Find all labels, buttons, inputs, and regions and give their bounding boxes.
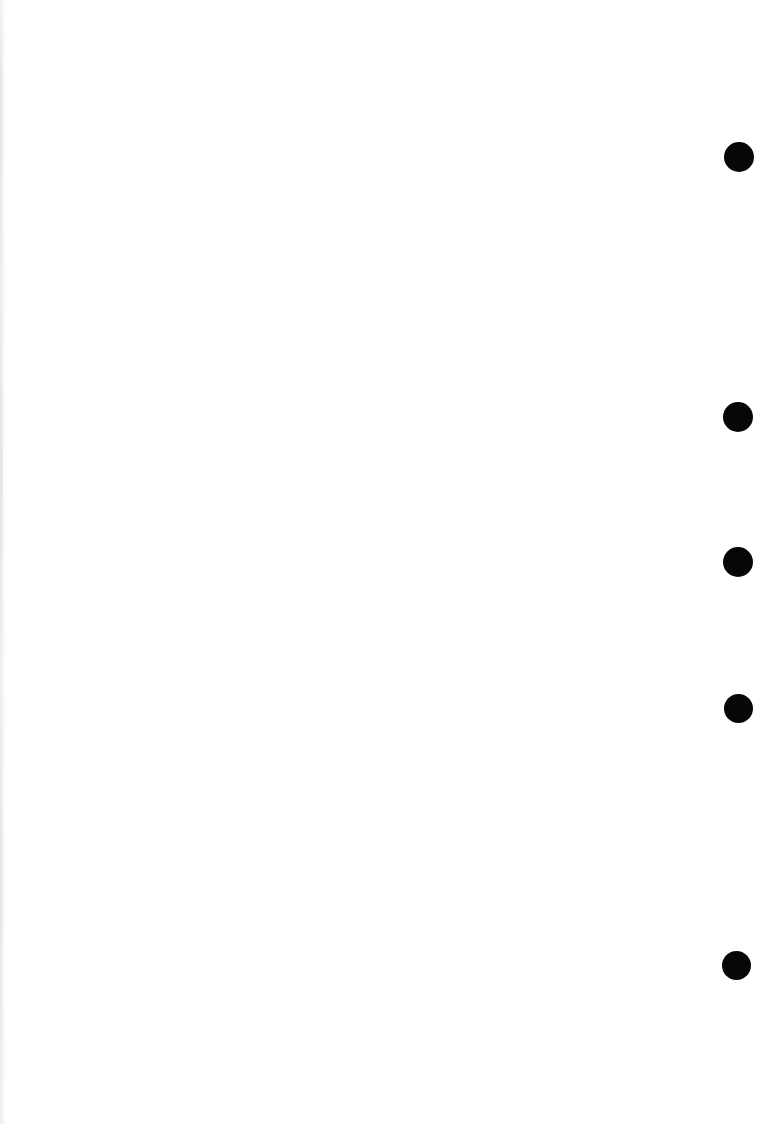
page-content-area — [0, 0, 700, 1124]
scanned-page — [0, 0, 772, 1124]
margin-bullet-3 — [723, 547, 753, 577]
margin-bullet-5 — [722, 951, 751, 980]
margin-bullet-1 — [724, 142, 754, 172]
margin-bullet-4 — [724, 694, 753, 723]
margin-bullet-2 — [723, 402, 753, 432]
